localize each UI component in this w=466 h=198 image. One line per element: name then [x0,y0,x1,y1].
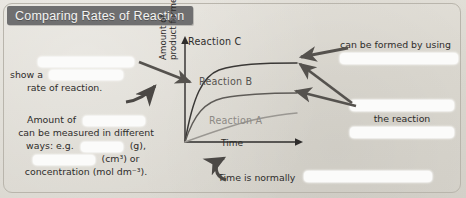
right-text-block-bottom: the reaction [338,98,466,139]
blank-field-5[interactable] [33,155,95,165]
left-line-2-text: show a [10,69,43,80]
left2-line-4: (cm³) or [6,152,166,165]
right2-line-3 [338,125,466,139]
blank-field-2[interactable] [49,70,123,80]
graph-svg [163,30,313,155]
left-text-block-bottom: Amount of can be measured in different w… [6,113,166,178]
curve-label-reaction-b: Reaction B [199,76,252,87]
y-axis-label-line-2: product formed [169,0,179,60]
left-text-block-top: show a rate of reaction. [10,55,162,96]
right-line-1: can be formed by using [340,38,464,51]
right-text-block-top: can be formed by using [340,38,464,64]
left2-line-2: can be measured in different [6,126,166,139]
blank-field-9[interactable] [304,171,432,182]
right-line-2 [340,51,464,64]
left2-line-4-post: (cm³) or [102,153,140,164]
blank-field-3[interactable] [83,116,145,126]
x-axis-label: Time [221,138,243,148]
bottom-text-block: Time is normally [218,167,432,185]
left-line-1 [10,55,162,68]
right2-line-1 [338,98,466,112]
worksheet-page: Comparing Rates of Reaction show a rate … [0,0,466,198]
blank-field-7[interactable] [350,100,454,111]
blank-field-4[interactable] [81,142,123,152]
left-line-2: show a [10,69,162,82]
blank-field-1[interactable] [38,57,134,67]
left2-line-3-pre: ways: e.g. [26,140,74,151]
y-axis-label: Amount of product formed [159,0,178,60]
bottom-label: Time is normally [218,172,295,183]
left2-line-1-text: Amount of [27,114,76,125]
left-line-3: rate of reaction. [10,82,162,95]
blank-field-6[interactable] [340,53,458,64]
curve-reaction-c [185,63,297,142]
left2-line-1: Amount of [6,113,166,126]
blank-field-8[interactable] [350,127,454,138]
left2-line-3: ways: e.g. (g), [6,139,166,152]
left2-line-5: concentration (mol dm⁻³). [6,165,166,178]
curve-label-reaction-a: Reaction A [209,115,262,126]
left2-line-3-post: (g), [130,140,146,151]
right2-line-2: the reaction [338,112,466,126]
curve-label-reaction-c: Reaction C [188,36,241,47]
x-axis-arrowhead [295,138,303,146]
rates-of-reaction-graph: Amount of product formed Reaction C Reac… [163,30,313,155]
